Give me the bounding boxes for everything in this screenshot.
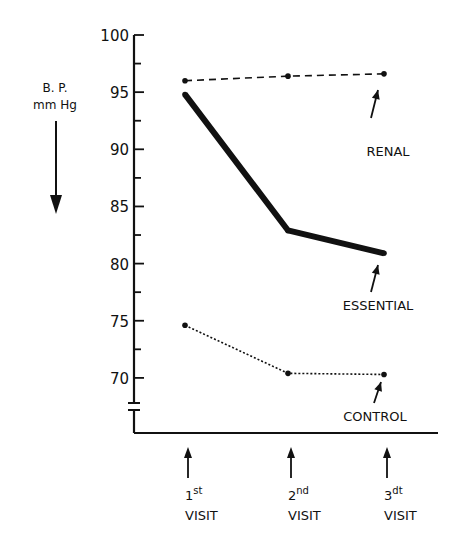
y-tick-label: 75 bbox=[110, 313, 129, 331]
data-point bbox=[182, 92, 188, 98]
visit-ordinal: 1st bbox=[185, 485, 202, 503]
visit-label: VISIT bbox=[288, 508, 321, 523]
data-point bbox=[381, 372, 387, 378]
x-category-3: 3dtVISIT bbox=[383, 447, 417, 523]
y-axis-label-line1: B. P. bbox=[42, 81, 67, 95]
up-arrow-icon bbox=[383, 447, 391, 458]
series-label: ESSENTIAL bbox=[343, 298, 414, 313]
y-tick-label: 90 bbox=[110, 141, 129, 159]
series-layer bbox=[182, 71, 387, 377]
series-renal bbox=[182, 71, 387, 83]
down-arrow-icon bbox=[50, 121, 62, 214]
axes: 100959085807570 bbox=[100, 27, 438, 433]
up-arrow-icon bbox=[287, 447, 295, 458]
x-category-2: 2ndVISIT bbox=[287, 447, 321, 523]
y-axis-label: B. P. mm Hg bbox=[33, 81, 77, 214]
data-point bbox=[285, 73, 291, 79]
visit-ordinal: 2nd bbox=[288, 485, 309, 503]
y-axis-label-line2: mm Hg bbox=[33, 98, 77, 112]
series-label: RENAL bbox=[366, 144, 410, 159]
data-point bbox=[182, 323, 188, 329]
data-point bbox=[381, 251, 387, 257]
visit-label: VISIT bbox=[384, 508, 417, 523]
up-arrow-icon bbox=[184, 447, 192, 458]
data-point bbox=[285, 228, 291, 234]
y-tick-label: 70 bbox=[110, 370, 129, 388]
data-point bbox=[182, 78, 188, 84]
data-point bbox=[381, 71, 387, 77]
blood-pressure-chart: B. P. mm Hg 100959085807570 RENALESSENTI… bbox=[0, 0, 465, 555]
series-control bbox=[182, 323, 387, 378]
y-tick-label: 95 bbox=[110, 84, 129, 102]
annotation-essential: ESSENTIAL bbox=[343, 265, 414, 313]
series-label: CONTROL bbox=[343, 409, 407, 424]
series-essential bbox=[182, 92, 387, 256]
y-tick-label: 80 bbox=[110, 256, 129, 274]
data-point bbox=[285, 371, 291, 377]
y-tick-label: 85 bbox=[110, 198, 129, 216]
visit-ordinal: 3dt bbox=[384, 485, 403, 503]
visit-label: VISIT bbox=[185, 508, 218, 523]
y-tick-label: 100 bbox=[100, 27, 129, 45]
annotation-renal: RENAL bbox=[366, 90, 410, 159]
annotation-control: CONTROL bbox=[343, 382, 407, 424]
x-axis-categories: 1stVISIT2ndVISIT3dtVISIT bbox=[184, 447, 417, 523]
x-category-1: 1stVISIT bbox=[184, 447, 218, 523]
